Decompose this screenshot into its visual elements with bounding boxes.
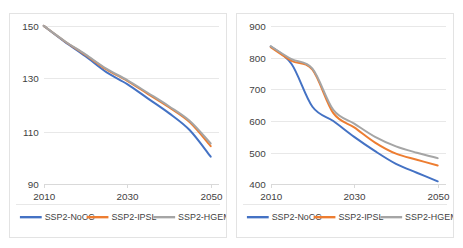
right-chart-x-tick-label: 2030 — [343, 191, 365, 202]
right-chart-y-tick-label: 700 — [249, 84, 266, 95]
left-chart-legend-item-ssp2-hgem[interactable]: SSP2-HGEM — [153, 212, 226, 222]
left-chart-y-tick-label: 150 — [22, 21, 39, 32]
legend-label: SSP2-IPSL — [111, 212, 156, 222]
left-chart-legend-item-ssp2-nocc[interactable]: SSP2-NoCC — [20, 212, 95, 222]
legend-label: SSP2-HGEM — [405, 212, 453, 222]
right-chart-legend-item-ssp2-ipsl[interactable]: SSP2-IPSL — [314, 212, 384, 222]
left-chart-x-tick-label: 2030 — [116, 191, 138, 202]
right-chart-y-tick-label: 800 — [249, 53, 266, 64]
right-chart-legend-item-ssp2-nocc[interactable]: SSP2-NoCC — [247, 212, 322, 222]
left-chart-series-ssp2-nocc — [44, 26, 211, 157]
left-chart-svg: 90110130150201020302050SSP2-NoCCSSP2-IPS… — [10, 14, 226, 237]
left-chart-panel: 90110130150201020302050SSP2-NoCCSSP2-IPS… — [9, 13, 227, 238]
right-chart-y-tick-label: 400 — [249, 179, 266, 190]
left-chart-y-tick-label: 130 — [22, 73, 39, 84]
right-chart-plot-area: 400500600700800900201020302050SSP2-NoCCS… — [237, 14, 453, 237]
left-chart-x-tick-label: 2010 — [33, 191, 55, 202]
right-chart-x-tick-label: 2010 — [260, 191, 282, 202]
right-chart-panel: 400500600700800900201020302050SSP2-NoCCS… — [236, 13, 454, 238]
legend-label: SSP2-IPSL — [338, 212, 383, 222]
right-chart-x-tick-label: 2050 — [428, 191, 450, 202]
right-chart-series-ssp2-ipsl — [271, 47, 438, 165]
left-chart-y-tick-label: 90 — [28, 179, 39, 190]
left-chart-plot-area: 90110130150201020302050SSP2-NoCCSSP2-IPS… — [10, 14, 226, 237]
right-chart-y-tick-label: 600 — [249, 116, 266, 127]
left-chart-x-tick-label: 2050 — [201, 191, 223, 202]
right-chart-svg: 400500600700800900201020302050SSP2-NoCCS… — [237, 14, 453, 237]
dual-line-chart-figure: 90110130150201020302050SSP2-NoCCSSP2-IPS… — [0, 0, 463, 248]
right-chart-y-tick-label: 900 — [249, 21, 266, 32]
right-chart-legend-item-ssp2-hgem[interactable]: SSP2-HGEM — [380, 212, 453, 222]
left-chart-legend-item-ssp2-ipsl[interactable]: SSP2-IPSL — [87, 212, 157, 222]
right-chart-y-tick-label: 500 — [249, 148, 266, 159]
left-chart-y-tick-label: 110 — [23, 127, 39, 138]
legend-label: SSP2-HGEM — [178, 212, 226, 222]
right-chart-series-ssp2-nocc — [271, 47, 438, 182]
